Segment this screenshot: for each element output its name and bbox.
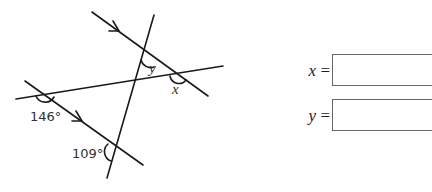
angle-arc-109 bbox=[104, 144, 111, 161]
answer-input-y[interactable] bbox=[332, 99, 432, 131]
answer-input-x[interactable] bbox=[332, 54, 432, 86]
answer-label-x: x = bbox=[296, 61, 332, 81]
angle-label-109: 109° bbox=[72, 146, 103, 161]
answer-label-y: y = bbox=[296, 106, 332, 126]
angle-label-146: 146° bbox=[30, 109, 61, 124]
answer-row-y: y = bbox=[296, 99, 332, 133]
angle-label-y: y bbox=[147, 60, 156, 76]
answer-row-x: x = bbox=[296, 54, 332, 88]
geometry-diagram: y x 146° 109° bbox=[0, 0, 260, 192]
angle-label-x: x bbox=[171, 81, 179, 97]
transversal-line-shallow bbox=[16, 66, 223, 99]
